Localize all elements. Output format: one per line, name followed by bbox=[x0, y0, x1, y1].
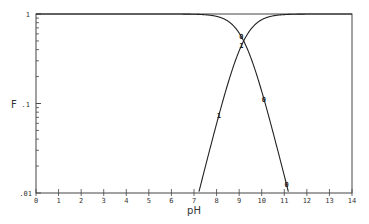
y-tick-label-0.1: .1 bbox=[22, 101, 30, 109]
x-tick-label: 3 bbox=[102, 197, 106, 205]
marker-f0: 0 bbox=[284, 181, 288, 189]
x-tick-label: 0 bbox=[34, 197, 38, 205]
x-tick-label: 4 bbox=[124, 197, 128, 205]
curve-markers: 00011 bbox=[217, 33, 289, 189]
y-tick-label-1: 1 bbox=[26, 11, 30, 19]
x-tick-label: 8 bbox=[214, 197, 218, 205]
marker-f1: 1 bbox=[217, 112, 221, 120]
x-tick-label: 5 bbox=[147, 197, 151, 205]
marker-f1: 1 bbox=[239, 42, 243, 50]
x-tick-label: 7 bbox=[192, 197, 196, 205]
curve-f0 bbox=[36, 14, 288, 192]
x-tick-label: 9 bbox=[237, 197, 241, 205]
y-axis-ticks bbox=[36, 14, 41, 193]
marker-f0: 0 bbox=[262, 96, 266, 104]
x-axis-ticks: 01234567891011121314 bbox=[34, 189, 356, 205]
marker-f0: 0 bbox=[239, 33, 243, 41]
plot-frame bbox=[36, 14, 352, 193]
x-tick-label: 13 bbox=[325, 197, 333, 205]
fraction-vs-ph-chart: 01234567891011121314 1 .1 .01 F pH 00011 bbox=[0, 0, 369, 224]
curve-f1 bbox=[199, 14, 352, 192]
x-tick-label: 14 bbox=[348, 197, 356, 205]
x-tick-label: 2 bbox=[79, 197, 83, 205]
y-axis-label: F bbox=[11, 99, 17, 110]
x-tick-label: 1 bbox=[56, 197, 60, 205]
x-tick-label: 11 bbox=[280, 197, 288, 205]
x-tick-label: 6 bbox=[169, 197, 173, 205]
x-tick-label: 10 bbox=[257, 197, 265, 205]
x-axis-label: pH bbox=[187, 205, 201, 216]
y-tick-label-0.01: .01 bbox=[19, 190, 32, 198]
x-tick-label: 12 bbox=[303, 197, 311, 205]
